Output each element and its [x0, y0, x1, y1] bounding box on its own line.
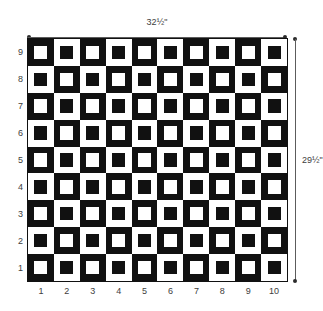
quilt-cell: [28, 227, 54, 254]
quilt-cell: [54, 254, 80, 281]
quilt-cell: [261, 173, 287, 200]
quilt-grid-container: [28, 39, 287, 281]
row-axis-label: 6: [8, 120, 25, 147]
quilt-cell-inner-square: [60, 153, 73, 166]
quilt-cell-inner-square: [112, 73, 125, 86]
quilt-cell-inner-square: [190, 153, 203, 166]
column-axis-label: 2: [54, 284, 80, 300]
height-dimension-label: 29½": [302, 155, 323, 165]
quilt-cell: [54, 120, 80, 147]
quilt-cell-inner-square: [34, 153, 47, 166]
quilt-cell-inner-square: [138, 99, 151, 112]
quilt-cell-inner-square: [34, 46, 47, 59]
quilt-cell: [80, 120, 106, 147]
quilt-cell: [28, 254, 54, 281]
quilt-cell: [54, 66, 80, 93]
quilt-cell: [28, 173, 54, 200]
quilt-cell-inner-square: [242, 126, 255, 139]
quilt-cell: [157, 39, 183, 66]
quilt-cell: [183, 39, 209, 66]
quilt-cell-inner-square: [34, 73, 47, 86]
row-axis-label: 2: [8, 227, 25, 254]
quilt-cell: [106, 200, 132, 227]
quilt-cell-inner-square: [112, 261, 125, 274]
quilt-cell-inner-square: [60, 234, 73, 247]
quilt-cell: [235, 200, 261, 227]
quilt-cell: [80, 173, 106, 200]
quilt-cell-inner-square: [138, 126, 151, 139]
quilt-cell: [157, 147, 183, 174]
quilt-cell-inner-square: [34, 126, 47, 139]
quilt-cell-inner-square: [164, 99, 177, 112]
quilt-cell-inner-square: [268, 207, 281, 220]
quilt-cell: [183, 93, 209, 120]
quilt-cell: [54, 39, 80, 66]
quilt-cell-inner-square: [268, 99, 281, 112]
quilt-cell-inner-square: [86, 261, 99, 274]
quilt-cell: [80, 66, 106, 93]
quilt-cell: [235, 147, 261, 174]
quilt-cell: [132, 173, 158, 200]
quilt-cell: [235, 173, 261, 200]
quilt-cell-inner-square: [112, 99, 125, 112]
quilt-cell-inner-square: [86, 126, 99, 139]
quilt-cell: [261, 254, 287, 281]
quilt-cell: [261, 227, 287, 254]
quilt-grid: [28, 39, 287, 281]
column-axis-label: 4: [106, 284, 132, 300]
quilt-cell-inner-square: [138, 207, 151, 220]
quilt-cell: [261, 93, 287, 120]
row-axis-label: 1: [8, 254, 25, 281]
quilt-cell: [106, 66, 132, 93]
quilt-cell-inner-square: [138, 46, 151, 59]
quilt-cell-inner-square: [34, 99, 47, 112]
quilt-cell-inner-square: [60, 46, 73, 59]
quilt-cell-inner-square: [164, 153, 177, 166]
quilt-cell-inner-square: [190, 46, 203, 59]
quilt-cell: [209, 66, 235, 93]
quilt-cell: [235, 39, 261, 66]
quilt-cell-inner-square: [60, 261, 73, 274]
quilt-cell: [132, 147, 158, 174]
quilt-cell: [209, 147, 235, 174]
quilt-cell: [209, 254, 235, 281]
quilt-cell-inner-square: [190, 180, 203, 193]
quilt-cell: [157, 254, 183, 281]
quilt-cell: [183, 147, 209, 174]
quilt-cell-inner-square: [164, 180, 177, 193]
quilt-cell-inner-square: [60, 99, 73, 112]
row-axis-label: 4: [8, 173, 25, 200]
quilt-cell-inner-square: [268, 153, 281, 166]
quilt-cell-inner-square: [164, 207, 177, 220]
quilt-cell: [54, 93, 80, 120]
quilt-cell: [183, 66, 209, 93]
quilt-cell: [261, 200, 287, 227]
quilt-cell: [261, 39, 287, 66]
quilt-cell-inner-square: [164, 73, 177, 86]
width-dimension-rule: [28, 37, 286, 38]
quilt-cell-inner-square: [164, 46, 177, 59]
column-axis-label: 10: [261, 284, 287, 300]
quilt-cell-inner-square: [216, 126, 229, 139]
quilt-cell: [183, 173, 209, 200]
quilt-cell: [132, 39, 158, 66]
quilt-cell-inner-square: [112, 46, 125, 59]
width-dimension-label: 32½": [28, 17, 286, 27]
quilt-cell-inner-square: [216, 234, 229, 247]
quilt-cell-inner-square: [34, 234, 47, 247]
quilt-cell-inner-square: [216, 99, 229, 112]
height-dimension-rule: [295, 39, 296, 281]
quilt-cell: [209, 93, 235, 120]
quilt-cell-inner-square: [60, 126, 73, 139]
quilt-cell: [80, 254, 106, 281]
quilt-cell: [261, 66, 287, 93]
quilt-cell-inner-square: [190, 234, 203, 247]
quilt-cell: [28, 93, 54, 120]
column-axis-label: 1: [28, 284, 54, 300]
quilt-cell-inner-square: [86, 153, 99, 166]
quilt-cell-inner-square: [216, 207, 229, 220]
quilt-cell-inner-square: [190, 73, 203, 86]
quilt-cell: [261, 120, 287, 147]
height-dimension-line: 29½": [292, 39, 302, 281]
quilt-cell: [209, 173, 235, 200]
